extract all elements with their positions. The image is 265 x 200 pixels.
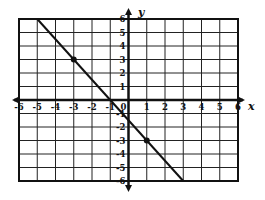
x-tick-label: 2 [162, 102, 168, 112]
y-tick-label: -5 [116, 163, 126, 173]
y-tick-label: 3 [120, 55, 126, 65]
y-tick-label: -4 [116, 149, 126, 159]
x-tick-label: 3 [180, 102, 186, 112]
y-tick-label: 4 [120, 41, 126, 51]
x-tick-label: -2 [87, 102, 97, 112]
data-point [71, 57, 77, 63]
x-tick-label: -4 [51, 102, 61, 112]
y-tick-label: 2 [120, 68, 126, 78]
y-tick-label: 6 [120, 14, 126, 24]
x-tick-label: 6 [235, 102, 241, 112]
axes [12, 8, 245, 192]
y-tick-label: -6 [116, 176, 126, 186]
y-tick-label: -3 [116, 136, 126, 146]
y-axis-up-arrow-icon [125, 8, 132, 15]
graph-svg: -6-5-4-3-2-10123456-6-5-4-3-2-1123456 x … [0, 0, 265, 200]
y-tick-label: -2 [116, 122, 126, 132]
x-tick-label: -5 [33, 102, 43, 112]
x-tick-label: 1 [144, 102, 150, 112]
y-tick-label: 1 [120, 82, 126, 92]
x-tick-label: 5 [217, 102, 223, 112]
data-point [144, 138, 150, 144]
y-axis-label: y [137, 6, 146, 19]
x-tick-label: -6 [14, 102, 24, 112]
coordinate-plane: -6-5-4-3-2-10123456-6-5-4-3-2-1123456 x … [0, 0, 265, 200]
x-tick-label: 4 [199, 102, 205, 112]
x-axis-label: x [247, 100, 255, 113]
y-tick-label: 5 [120, 28, 126, 38]
x-tick-label: -3 [69, 102, 79, 112]
y-axis-down-arrow-icon [125, 185, 132, 192]
y-tick-label: -1 [116, 109, 126, 119]
